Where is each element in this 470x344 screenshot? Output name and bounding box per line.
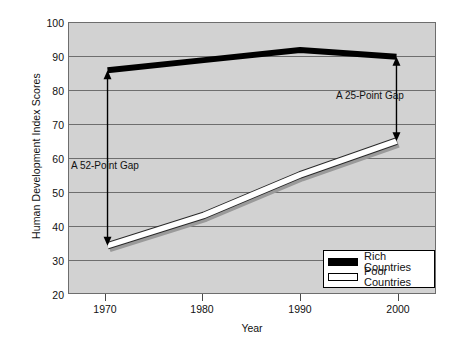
y-tick-20: 20 xyxy=(20,290,64,301)
poor-countries-line xyxy=(108,141,397,246)
legend-label-poor-countries: Poor Countries xyxy=(364,266,429,288)
x-tickmark-1980 xyxy=(202,294,203,301)
chart-figure: Human Development Index Scores 100 90 80… xyxy=(0,0,470,344)
y-tick-70: 70 xyxy=(20,120,64,131)
gap-annotation-left: A 52-Point Gap xyxy=(71,160,139,171)
x-tickmark-2000 xyxy=(398,294,399,301)
y-tick-80: 80 xyxy=(20,86,64,97)
y-tick-40: 40 xyxy=(20,222,64,233)
y-axis-tick-labels: 100 90 80 70 60 50 40 30 20 xyxy=(16,0,64,344)
x-tickmark-1970 xyxy=(105,294,106,301)
gap-annotation-right: A 25-Point Gap xyxy=(336,90,404,101)
y-tick-30: 30 xyxy=(20,256,64,267)
y-tick-60: 60 xyxy=(20,154,64,165)
x-tick-1980: 1980 xyxy=(172,303,232,315)
y-tick-50: 50 xyxy=(20,188,64,199)
plot-area: Rich Countries Poor Countries xyxy=(68,22,436,294)
rich-countries-line xyxy=(108,50,397,70)
x-tickmark-1990 xyxy=(300,294,301,301)
y-tick-100: 100 xyxy=(20,18,64,29)
chart-legend: Rich Countries Poor Countries xyxy=(323,250,435,288)
legend-swatch-poor-countries xyxy=(328,273,358,281)
legend-item-poor-countries: Poor Countries xyxy=(328,269,429,284)
x-axis-title: Year xyxy=(68,322,436,334)
y-tick-90: 90 xyxy=(20,52,64,63)
gap-arrow-left xyxy=(104,70,112,246)
x-tick-1990: 1990 xyxy=(270,303,330,315)
x-tick-1970: 1970 xyxy=(75,303,135,315)
legend-swatch-rich-countries xyxy=(328,258,358,266)
x-tick-2000: 2000 xyxy=(368,303,428,315)
